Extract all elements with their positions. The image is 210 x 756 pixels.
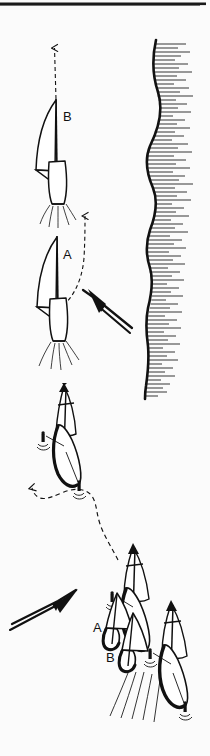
label-upper-boat-a: A xyxy=(63,247,72,262)
course-path-b xyxy=(55,48,57,99)
coastline xyxy=(145,40,193,399)
label-lower-boat-a: A xyxy=(93,620,102,635)
wake-lines xyxy=(110,672,160,722)
wind-arrow-lower xyxy=(10,589,78,630)
boat-lower-right-bottom xyxy=(144,600,192,720)
top-border-rule xyxy=(0,3,206,6)
label-upper-boat-b: B xyxy=(63,109,72,124)
figure-root: B A xyxy=(0,0,210,756)
upper-scene: B A xyxy=(36,48,132,370)
course-path-a xyxy=(58,216,85,310)
crew-marker-lead-left xyxy=(37,431,50,450)
sailing-diagram-svg: B A xyxy=(0,0,210,756)
course-path-lower xyxy=(32,488,118,560)
boat-upper-a xyxy=(37,236,79,370)
boat-lower-lead xyxy=(37,383,86,499)
lower-scene: A B xyxy=(10,383,192,722)
label-lower-boat-b: B xyxy=(106,650,115,665)
wind-arrow-upper xyxy=(83,289,132,333)
